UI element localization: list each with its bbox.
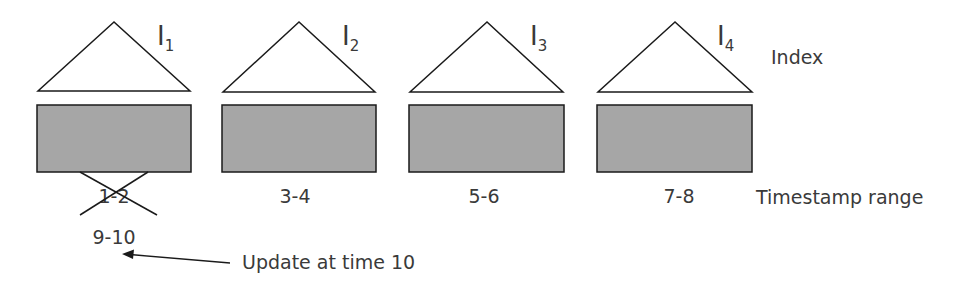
- data-block-1: [37, 105, 191, 172]
- index-triangle-4: [598, 22, 752, 92]
- range-legend-label: Timestamp range: [755, 186, 923, 208]
- index-partition-diagram: I1 1-2 9-10 I2 3-4 I3 5-6 I4 7-8 Index T…: [0, 0, 958, 284]
- index-label-4: I4: [717, 21, 734, 55]
- range-label-2: 3-4: [279, 185, 310, 207]
- partition-3: I3 5-6: [409, 21, 564, 207]
- partition-2: I2 3-4: [222, 21, 376, 207]
- index-legend-label: Index: [771, 46, 823, 68]
- range-label-1-old: 1-2: [98, 185, 129, 207]
- index-triangle-3: [410, 22, 563, 92]
- data-block-4: [597, 105, 752, 172]
- range-label-4: 7-8: [663, 185, 694, 207]
- update-annotation: Update at time 10: [242, 251, 415, 273]
- range-label-1-new: 9-10: [92, 226, 135, 248]
- partition-1: I1 1-2 9-10: [37, 21, 191, 248]
- index-label-2: I2: [342, 21, 359, 55]
- index-label-3: I3: [530, 21, 547, 55]
- range-label-3: 5-6: [468, 185, 499, 207]
- index-triangle-2: [223, 22, 375, 92]
- data-block-2: [222, 105, 376, 172]
- partition-4: I4 7-8: [597, 21, 752, 207]
- data-block-3: [409, 105, 564, 172]
- arrow-left-icon: [122, 250, 230, 264]
- index-triangle-1: [38, 22, 190, 91]
- index-label-1: I1: [157, 21, 174, 55]
